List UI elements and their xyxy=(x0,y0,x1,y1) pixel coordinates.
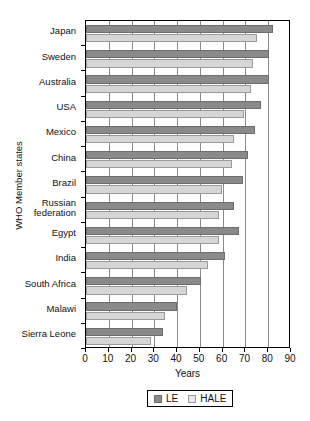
y-axis-label-south-africa: South Africa xyxy=(0,279,81,290)
bar-hale xyxy=(86,160,232,168)
bar-le xyxy=(86,50,269,58)
bar-hale xyxy=(86,34,257,42)
y-axis-label-india: India xyxy=(0,253,81,264)
legend-item-le[interactable]: LE xyxy=(154,393,178,404)
bar-le xyxy=(86,202,234,210)
x-axis-tick-label-50: 50 xyxy=(193,353,204,364)
bar-le xyxy=(86,302,177,310)
y-axis-label-usa: USA xyxy=(0,102,81,113)
x-axis-tick-60 xyxy=(222,348,223,352)
bar-le xyxy=(86,126,255,134)
x-axis-tick-50 xyxy=(199,348,200,352)
legend-label: LE xyxy=(166,393,178,404)
x-axis-tick-label-30: 30 xyxy=(148,353,159,364)
y-axis-label-japan: Japan xyxy=(0,26,81,37)
x-axis-tick-40 xyxy=(176,348,177,352)
bar-hale xyxy=(86,185,222,193)
bar-row xyxy=(86,198,289,223)
bar-le xyxy=(86,328,163,336)
bar-row xyxy=(86,147,289,172)
bar-row xyxy=(86,122,289,147)
bar-le xyxy=(86,101,261,109)
legend-label: HALE xyxy=(200,393,226,404)
bar-hale xyxy=(86,312,165,320)
y-axis-label-brazil: Brazil xyxy=(0,178,81,189)
bar-le xyxy=(86,75,269,83)
x-axis-tick-30 xyxy=(153,348,154,352)
x-axis-tick-label-0: 0 xyxy=(82,353,88,364)
bar-hale xyxy=(86,59,253,67)
x-axis-tick-70 xyxy=(244,348,245,352)
x-axis-tick-80 xyxy=(267,348,268,352)
legend-swatch-icon-hale xyxy=(188,395,196,403)
bar-hale xyxy=(86,85,251,93)
x-axis-tick-label-20: 20 xyxy=(125,353,136,364)
y-axis-label-sweden: Sweden xyxy=(0,52,81,63)
bar-hale xyxy=(86,286,187,294)
x-axis-title: Years xyxy=(85,368,290,379)
x-axis-tick-label-90: 90 xyxy=(284,353,295,364)
bar-row xyxy=(86,97,289,122)
bar-row xyxy=(86,71,289,96)
bar-le xyxy=(86,151,248,159)
y-axis-label-egypt: Egypt xyxy=(0,228,81,239)
x-axis-tick-label-10: 10 xyxy=(102,353,113,364)
bar-le xyxy=(86,277,201,285)
x-axis-tick-label-70: 70 xyxy=(239,353,250,364)
y-axis-label-malawi: Malawi xyxy=(0,304,81,315)
bar-row xyxy=(86,223,289,248)
bar-row xyxy=(86,46,289,71)
legend-item-hale[interactable]: HALE xyxy=(188,393,226,404)
bar-le xyxy=(86,25,273,33)
x-axis-tick-0 xyxy=(85,348,86,352)
plot-area xyxy=(85,20,290,348)
bar-row xyxy=(86,172,289,197)
bar-le xyxy=(86,252,225,260)
x-axis-tick-20 xyxy=(131,348,132,352)
x-axis-tick-90 xyxy=(290,348,291,352)
bar-row xyxy=(86,299,289,324)
bar-hale xyxy=(86,110,244,118)
bar-hale xyxy=(86,135,234,143)
y-axis-label-sierra-leone: Sierra Leone xyxy=(0,329,81,340)
y-axis-label-china: China xyxy=(0,153,81,164)
y-axis-label-russian-federation: Russian federation xyxy=(0,198,81,219)
bar-hale xyxy=(86,337,151,345)
bar-row xyxy=(86,248,289,273)
y-axis-label-mexico: Mexico xyxy=(0,127,81,138)
x-axis-tick-labels: 0102030405060708090 xyxy=(85,353,290,367)
bar-row xyxy=(86,21,289,46)
chart-figure: WHO Member states JapanSwedenAustraliaUS… xyxy=(0,0,310,421)
bar-hale xyxy=(86,211,219,219)
bar-row xyxy=(86,324,289,349)
y-axis-category-labels: JapanSwedenAustraliaUSAMexicoChinaBrazil… xyxy=(0,20,81,348)
x-axis-tick-label-40: 40 xyxy=(171,353,182,364)
bar-le xyxy=(86,227,239,235)
x-axis-tick-10 xyxy=(108,348,109,352)
x-axis-tick-label-60: 60 xyxy=(216,353,227,364)
bar-hale xyxy=(86,261,208,269)
bar-rows xyxy=(86,21,289,347)
bar-hale xyxy=(86,236,219,244)
x-axis-tick-label-80: 80 xyxy=(262,353,273,364)
y-axis-label-australia: Australia xyxy=(0,77,81,88)
chart-legend: LEHALE xyxy=(147,390,233,407)
bar-le xyxy=(86,176,243,184)
legend-swatch-icon-le xyxy=(154,395,162,403)
bar-row xyxy=(86,273,289,298)
